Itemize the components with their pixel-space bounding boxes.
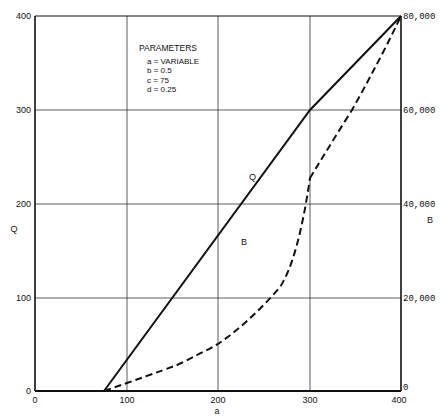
svg-text:100: 100 (119, 395, 134, 405)
svg-text:20,000: 20,000 (403, 294, 435, 304)
annotation-q: Q (249, 172, 256, 182)
svg-text:200: 200 (210, 395, 225, 405)
chart-canvas: 400 300 200 100 0 80,000 60,000 40,000 2… (0, 0, 443, 417)
x-axis-ticks: 0 100 200 300 400 (32, 395, 406, 405)
svg-text:0: 0 (403, 383, 408, 393)
y-axis-label: Q (10, 224, 17, 234)
svg-text:40,000: 40,000 (403, 200, 435, 210)
svg-text:0: 0 (32, 395, 37, 405)
svg-text:0: 0 (26, 386, 31, 396)
parameter-d: d = 0.25 (139, 85, 199, 95)
y2-axis-ticks: 80,000 60,000 40,000 20,000 0 (403, 12, 435, 393)
svg-text:300: 300 (16, 105, 31, 115)
parameters-box: PARAMETERS a = VARIABLE b = 0.5 c = 75 d… (139, 44, 199, 95)
y-axis-ticks: 400 300 200 100 0 (16, 11, 31, 396)
svg-text:400: 400 (16, 11, 31, 21)
y2-axis-label: B (427, 215, 433, 225)
parameter-a: a = VARIABLE (139, 57, 199, 67)
svg-text:60,000: 60,000 (403, 106, 435, 116)
svg-text:80,000: 80,000 (403, 12, 435, 22)
svg-text:400: 400 (391, 395, 406, 405)
parameter-b: b = 0.5 (139, 66, 199, 76)
svg-text:200: 200 (16, 199, 31, 209)
svg-text:300: 300 (302, 395, 317, 405)
parameter-c: c = 75 (139, 76, 199, 86)
svg-text:100: 100 (16, 293, 31, 303)
parameters-title: PARAMETERS (139, 44, 199, 54)
annotation-b: B (241, 237, 247, 247)
x-axis-label: a (214, 406, 219, 416)
